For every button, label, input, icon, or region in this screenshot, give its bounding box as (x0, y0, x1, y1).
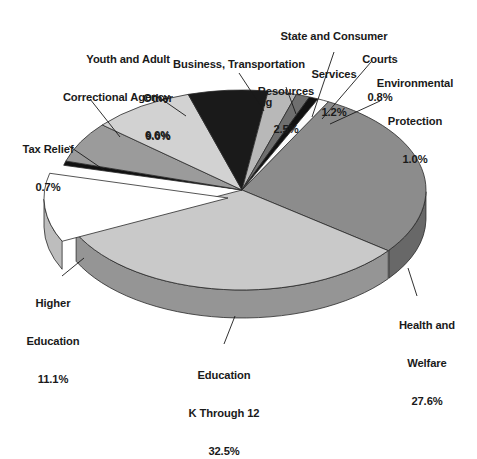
label-higher-education-value: 11.1% (1, 373, 105, 386)
label-higher-education-line1: Higher (1, 297, 105, 310)
label-tax-relief-line1: Tax Relief (4, 143, 92, 156)
label-health-and-welfare-line2: Welfare (381, 357, 473, 370)
label-higher-education-line2: Education (1, 335, 105, 348)
label-education-k12: Education K Through 12 32.5% (158, 344, 290, 459)
label-education-k12-value: 32.5% (158, 445, 290, 458)
label-health-and-welfare-line1: Health and (381, 319, 473, 332)
label-health-and-welfare-value: 27.6% (381, 395, 473, 408)
leader-line-health-and-welfare (408, 268, 417, 296)
label-environmental-protection-value: 1.0% (355, 153, 475, 166)
label-education-k12-line2: K Through 12 (158, 407, 290, 420)
label-tax-relief: Tax Relief 0.7% (4, 118, 92, 219)
label-environmental-protection-line1: Environmental (355, 77, 475, 90)
leader-line-education-k12 (224, 316, 235, 344)
label-tax-relief-value: 0.7% (4, 181, 92, 194)
label-environmental-protection: Environmental Protection 1.0% (355, 52, 475, 191)
label-higher-education: Higher Education 11.1% (1, 272, 105, 411)
label-health-and-welfare: Health and Welfare 27.6% (381, 294, 473, 433)
label-education-k12-line1: Education (158, 369, 290, 382)
label-environmental-protection-line2: Protection (355, 115, 475, 128)
